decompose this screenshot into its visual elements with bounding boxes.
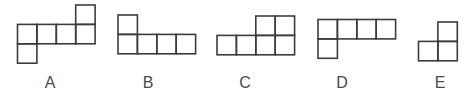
- figure-d-shape: [318, 20, 396, 59]
- grid-cell: [76, 5, 95, 24]
- figure-b-shape: [118, 15, 196, 54]
- grid-cell: [56, 24, 75, 43]
- grid-cell: [76, 24, 95, 43]
- grid-cell: [438, 22, 457, 41]
- figure-c-label: C: [230, 74, 260, 92]
- grid-cell: [256, 16, 275, 35]
- grid-cell: [18, 24, 37, 43]
- grid-cell: [357, 20, 376, 39]
- grid-cell: [18, 44, 37, 63]
- grid-cell: [275, 16, 294, 35]
- grid-cell: [337, 20, 356, 39]
- grid-cell: [376, 20, 395, 39]
- grid-cell: [256, 35, 275, 54]
- figure-e-label: E: [425, 74, 455, 92]
- figure-e-shape: [419, 22, 458, 61]
- grid-cell: [318, 39, 337, 58]
- grid-cell: [438, 41, 457, 60]
- grid-cell: [37, 24, 56, 43]
- grid-cell: [118, 34, 137, 53]
- grid-cell: [419, 41, 438, 60]
- grid-cell: [318, 20, 337, 39]
- grid-cell: [275, 35, 294, 54]
- figure-d-label: D: [327, 74, 357, 92]
- grid-cell: [176, 34, 195, 53]
- figure-b-label: B: [133, 74, 163, 92]
- grid-cell: [137, 34, 156, 53]
- grid-cell: [236, 35, 255, 54]
- figure-c-shape: [217, 16, 295, 55]
- figure-a-shape: [18, 5, 96, 63]
- grid-cell: [118, 15, 137, 34]
- grid-cell: [157, 34, 176, 53]
- figure-a-label: A: [35, 74, 65, 92]
- grid-cell: [217, 35, 236, 54]
